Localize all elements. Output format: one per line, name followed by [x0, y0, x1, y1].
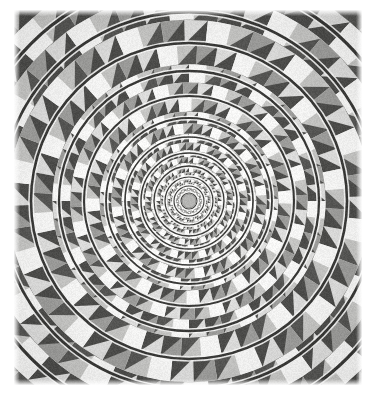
illusion-canvas — [0, 0, 378, 399]
figure-page: Fraser spiral / concentric circles optic… — [0, 0, 378, 399]
illusion-figure — [0, 0, 378, 399]
